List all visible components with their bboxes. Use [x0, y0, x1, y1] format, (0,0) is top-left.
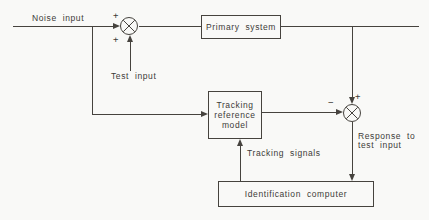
sum-to-primary-line: [139, 26, 201, 27]
tracking-reference-model-block: Tracking reference model: [208, 91, 262, 139]
block-diagram: + + Primary system Tracking reference mo…: [0, 0, 429, 220]
primary-system-block: Primary system: [201, 15, 281, 39]
primary-system-label: Primary system: [206, 22, 276, 32]
tracking-signals-label: Tracking signals: [247, 148, 321, 158]
tracking-model-label-line1: Tracking: [216, 100, 253, 110]
noise-branch-line-horizontal: [92, 114, 201, 115]
arrowhead-into-compare-sum-left-icon: [336, 109, 343, 115]
tracking-model-label-line2: reference: [214, 110, 255, 120]
test-input-line: [130, 42, 131, 71]
compare-sum-sign-left: −: [328, 97, 333, 107]
arrowhead-test-input-icon: [127, 35, 133, 42]
tracking-model-label-line3: model: [222, 120, 248, 130]
model-output-line: [262, 112, 336, 113]
noise-branch-line-vertical: [92, 26, 93, 114]
noise-input-label: Noise input: [32, 13, 84, 23]
primary-output-line: [281, 26, 419, 27]
input-sum-sign-upper: +: [113, 10, 118, 20]
noise-input-line: [13, 26, 113, 27]
output-drop-line: [352, 26, 353, 97]
arrowhead-into-input-sum-icon: [113, 23, 120, 29]
response-label-line2: test input: [358, 140, 402, 150]
compare-sum-sign-right: +: [355, 91, 360, 101]
arrowhead-into-tracking-model-icon: [201, 111, 208, 117]
test-input-label: Test input: [111, 71, 156, 81]
input-sum-sign-lower: +: [113, 34, 118, 44]
arrowhead-tracking-signals-icon: [237, 139, 243, 146]
sum-cross-icon: [344, 105, 360, 121]
arrowhead-into-identification-icon: [349, 174, 355, 181]
tracking-signals-line: [240, 146, 241, 181]
tracking-model-label: Tracking reference model: [214, 100, 255, 130]
response-to-test-input-label: Response to test input: [358, 132, 415, 149]
input-summing-junction: [120, 17, 138, 35]
identification-computer-label: Identification computer: [245, 189, 347, 199]
response-line: [352, 122, 353, 174]
compare-summing-junction: [343, 104, 361, 122]
identification-computer-block: Identification computer: [218, 181, 374, 207]
sum-cross-icon: [121, 18, 137, 34]
